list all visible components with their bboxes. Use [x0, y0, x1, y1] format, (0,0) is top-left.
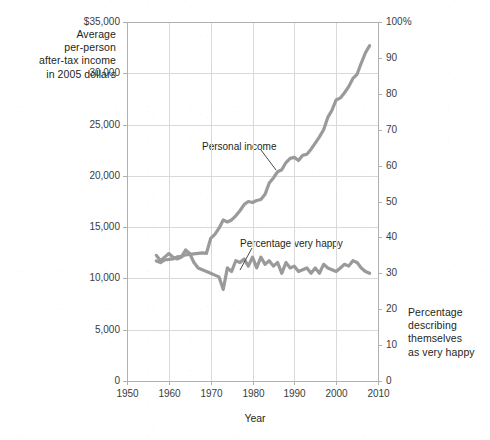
data-series [156, 46, 369, 290]
chart-figure: Average per-person after-tax income in 2… [0, 0, 490, 440]
plot-canvas [0, 0, 490, 440]
series-line-personal-income [156, 46, 369, 263]
annotation-leader-line [261, 150, 276, 170]
annotation-leader-lines [240, 150, 276, 270]
